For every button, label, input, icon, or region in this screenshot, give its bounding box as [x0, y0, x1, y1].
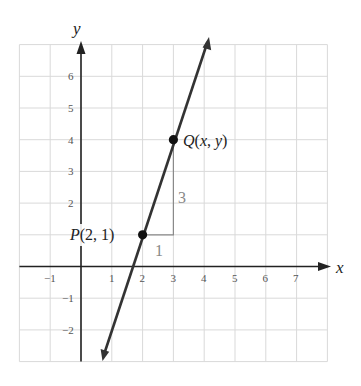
point-q-comma: ,	[207, 132, 215, 149]
y-tick: 4	[68, 134, 74, 146]
y-tick: −2	[62, 324, 74, 336]
y-tick: 6	[68, 70, 74, 82]
y-tick: 3	[68, 165, 74, 177]
y-axis-arrow-icon	[77, 41, 86, 54]
x-axis-arrow-icon	[318, 262, 331, 271]
run-label: 1	[155, 242, 163, 259]
x-tick: −1	[44, 272, 56, 284]
line-pq	[101, 37, 212, 361]
point-p-letter: P	[69, 226, 80, 243]
point-q	[169, 135, 178, 144]
line-bottom-arrow-icon	[101, 349, 110, 361]
x-tick-labels: −1 1 2 3 4 5 6 7	[44, 272, 299, 284]
point-q-x: x	[199, 132, 207, 149]
point-p	[138, 230, 147, 239]
x-tick: 2	[140, 272, 146, 284]
point-p-label: P(2, 1)	[69, 226, 114, 244]
x-axis	[19, 262, 331, 271]
y-tick: 5	[68, 102, 74, 114]
y-axis	[77, 41, 86, 362]
y-axis-label: y	[71, 19, 81, 38]
point-p-coords: (2, 1)	[80, 226, 115, 244]
rise-label: 3	[178, 189, 186, 206]
point-q-label: Q(x, y)	[183, 132, 227, 150]
y-tick: 2	[68, 197, 74, 209]
y-tick: −1	[62, 292, 74, 304]
x-tick: 5	[232, 272, 238, 284]
point-q-letter: Q	[183, 132, 195, 149]
coordinate-plane: y x −1 1 2 3 4 5 6 7 6 5 4 3 2 −1 −2 P(2…	[0, 0, 361, 386]
x-tick: 4	[201, 272, 207, 284]
x-tick: 1	[109, 272, 115, 284]
x-tick: 7	[293, 272, 299, 284]
x-axis-label: x	[335, 258, 344, 277]
x-tick: 6	[263, 272, 269, 284]
x-tick: 3	[171, 272, 177, 284]
point-q-close: )	[222, 132, 227, 150]
